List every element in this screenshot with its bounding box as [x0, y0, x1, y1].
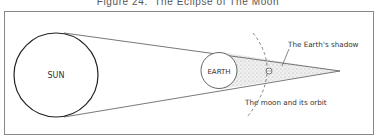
earth-shadow-region	[221, 52, 340, 89]
moon-orbit-label: The moon and its orbit	[244, 98, 327, 107]
earth-label: EARTH	[207, 68, 230, 76]
sun-label: SUN	[48, 71, 65, 80]
lower-tangent-line	[64, 71, 340, 117]
shadow-label: The Earth's shadow	[287, 40, 359, 49]
eclipse-diagram: SUN EARTH The Earth's shadow The moon an…	[0, 0, 380, 137]
